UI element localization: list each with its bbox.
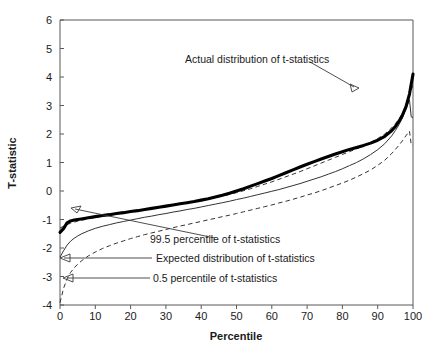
x-tick-label: 70	[301, 310, 313, 322]
y-tick-label: -4	[42, 299, 52, 311]
y-tick-label: 3	[46, 100, 52, 112]
annotation-actual-label: Actual distribution of t-statistics	[185, 53, 329, 65]
y-tick-label: -3	[42, 271, 52, 283]
y-tick-label: 0	[46, 185, 52, 197]
x-tick-label: 60	[266, 310, 278, 322]
x-tick-label: 90	[372, 310, 384, 322]
chart-figure: 6543210-1-2-3-4 0102030405060708090100 A…	[0, 0, 434, 355]
annotation-expected-label: Expected distribution of t-statistics	[156, 252, 315, 264]
x-axis-title: Percentile	[210, 330, 263, 342]
x-tick-label: 100	[404, 310, 422, 322]
x-tick-label: 50	[230, 310, 242, 322]
x-tick-label: 10	[89, 310, 101, 322]
y-tick-label: -1	[42, 214, 52, 226]
x-tick-label: 20	[124, 310, 136, 322]
t-statistic-percentile-chart: 6543210-1-2-3-4 0102030405060708090100 A…	[0, 0, 434, 355]
y-tick-label: 4	[46, 71, 52, 83]
y-tick-label: 5	[46, 43, 52, 55]
y-axis-title: T-statistic	[6, 137, 18, 188]
annotation-p995-label: 99.5 percentile of t-statistics	[150, 233, 280, 245]
y-tick-label: 6	[46, 14, 52, 26]
x-tick-label: 40	[195, 310, 207, 322]
x-tick-label: 30	[160, 310, 172, 322]
y-tick-label: 1	[46, 157, 52, 169]
annotation-p05-label: 0.5 percentile of t-statistics	[153, 272, 277, 284]
y-tick-label: 2	[46, 128, 52, 140]
y-tick-label: -2	[42, 242, 52, 254]
x-tick-label: 80	[336, 310, 348, 322]
x-tick-label: 0	[57, 310, 63, 322]
